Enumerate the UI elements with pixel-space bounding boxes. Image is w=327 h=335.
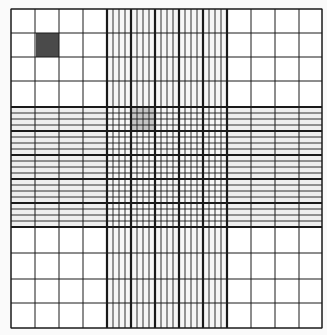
hemocytometer-diagram	[0, 0, 327, 335]
counting-grid	[0, 0, 327, 335]
dark-corner-square	[36, 33, 59, 57]
